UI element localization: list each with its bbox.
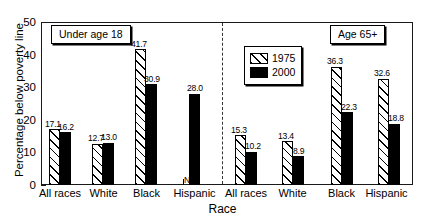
poverty-bar-chart: Percentage below poverty line 0 10 20 30… xyxy=(0,0,430,221)
y-axis-title: Percentage below poverty line xyxy=(13,5,25,195)
bar-1975-under18-white xyxy=(92,144,103,185)
bar-2000-age65-hispanic xyxy=(389,124,400,185)
value-label-2000-age65-white: 8.9 xyxy=(293,147,304,156)
value-label-2000-under18-hispanic: 28.0 xyxy=(187,84,203,93)
y-tick-30: 30 xyxy=(12,82,36,94)
legend-item-1975: 1975 xyxy=(250,52,295,65)
legend-label-2000: 2000 xyxy=(272,67,295,78)
x-group-label-age65-white: White xyxy=(265,187,320,199)
bar-1975-age65-black xyxy=(331,67,342,185)
legend-swatch-solid-icon xyxy=(250,67,268,78)
value-label-2000-age65-black: 22.3 xyxy=(341,103,357,112)
x-group-label-under18-hispanic: Hispanic xyxy=(164,187,225,199)
value-label-2000-age65-hispanic: 18.8 xyxy=(388,114,404,123)
bar-2000-age65-white xyxy=(293,156,304,185)
panel-label-under-age-18: Under age 18 xyxy=(51,25,131,44)
value-label-2000-under18-white: 13.0 xyxy=(101,133,117,142)
legend-swatch-hatched-icon xyxy=(250,53,268,64)
bar-2000-age65-all-races xyxy=(246,152,257,185)
value-label-2000-under18-all-races: 16.2 xyxy=(58,123,74,132)
value-label-2000-under18-black: 30.9 xyxy=(144,75,160,84)
bar-2000-under18-hispanic xyxy=(189,94,200,185)
value-label-2000-age65-all-races: 10.2 xyxy=(245,142,261,151)
value-label-1975-age65-white: 13.4 xyxy=(278,132,294,141)
panel-label-age-65-plus: Age 65+ xyxy=(330,25,385,44)
bar-2000-under18-all-races xyxy=(60,132,71,185)
y-tickmark-0 xyxy=(41,185,46,186)
x-group-label-age65-hispanic: Hispanic xyxy=(356,187,417,199)
bar-2000-under18-white xyxy=(103,143,114,185)
bar-1975-age65-hispanic xyxy=(378,79,389,185)
legend-item-2000: 2000 xyxy=(250,66,295,79)
legend: 1975 2000 xyxy=(244,46,302,85)
value-label-1975-age65-all-races: 15.3 xyxy=(231,126,247,135)
value-label-1975-age65-hispanic: 32.6 xyxy=(374,69,390,78)
bar-2000-age65-black xyxy=(342,112,353,185)
y-tick-20: 20 xyxy=(12,115,36,127)
bar-1975-under18-all-races xyxy=(49,129,60,185)
bar-2000-under18-black xyxy=(146,84,157,185)
panel-divider xyxy=(222,23,223,184)
y-tick-40: 40 xyxy=(12,50,36,62)
x-axis-title: Race xyxy=(30,202,415,216)
value-label-1975-age65-black: 36.3 xyxy=(327,57,343,66)
bar-1975-age65-white xyxy=(282,141,293,185)
value-label-1975-under18-black: 41.7 xyxy=(131,40,147,49)
y-tick-10: 10 xyxy=(12,147,36,159)
y-tick-50: 50 xyxy=(12,17,36,29)
bar-1975-under18-black xyxy=(135,49,146,185)
legend-label-1975: 1975 xyxy=(272,53,295,64)
